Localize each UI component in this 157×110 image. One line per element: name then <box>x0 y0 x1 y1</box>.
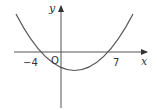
origin-label: O <box>51 55 59 66</box>
x-intercept-label-neg4: −4 <box>23 57 38 68</box>
parabola-graph: y x O −4 7 <box>0 0 157 110</box>
x-axis-label: x <box>141 55 148 68</box>
y-axis-label: y <box>48 2 56 15</box>
x-intercept-label-7: 7 <box>113 57 119 68</box>
